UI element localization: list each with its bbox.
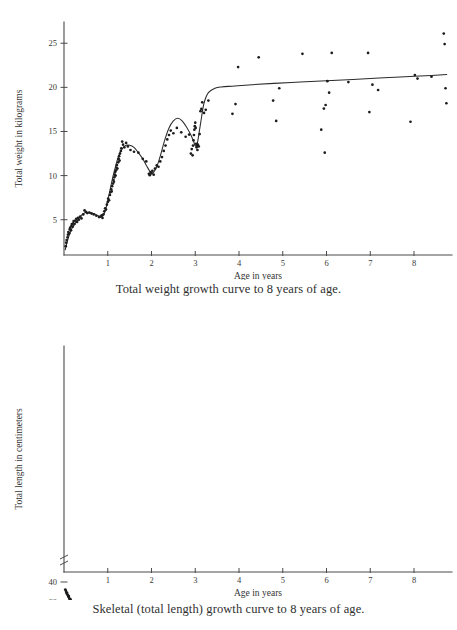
data-point: [64, 245, 67, 248]
data-point: [95, 214, 98, 217]
data-point: [326, 80, 329, 83]
data-point: [197, 145, 200, 148]
y-axis-title: Total weight in kilograms: [14, 89, 24, 187]
x-tick-label: 1: [106, 258, 110, 268]
data-point: [192, 139, 195, 142]
data-point: [70, 229, 73, 232]
data-point: [320, 128, 323, 131]
data-point: [92, 213, 95, 216]
data-point: [169, 129, 172, 132]
data-point: [330, 52, 333, 55]
figure-caption-weight: Total weight growth curve to 8 years of …: [0, 282, 457, 297]
data-point: [409, 120, 412, 123]
x-axis-title: Age in years: [234, 588, 282, 598]
figure-total-weight: 51015202512345678Age in yearsTotal weigh…: [0, 0, 457, 310]
data-point: [120, 147, 123, 150]
data-point: [116, 167, 119, 170]
x-tick-label: 2: [149, 258, 153, 268]
data-point: [194, 127, 197, 130]
data-point: [367, 52, 370, 55]
data-point: [73, 223, 76, 226]
x-tick-label: 3: [193, 575, 197, 585]
data-point: [272, 99, 275, 102]
y-tick-label: 10: [49, 171, 58, 181]
data-point: [157, 165, 160, 168]
data-point: [203, 112, 206, 115]
data-point: [180, 131, 183, 134]
data-point: [257, 56, 260, 59]
data-point: [301, 52, 304, 55]
data-point: [106, 203, 109, 206]
data-point: [200, 108, 203, 111]
data-point: [116, 164, 119, 167]
x-tick-label: 3: [193, 258, 197, 268]
x-tick-label: 5: [281, 258, 285, 268]
x-tick-label: 8: [412, 258, 416, 268]
y-tick-label: 60: [49, 597, 58, 600]
data-point: [237, 66, 240, 69]
data-point: [119, 152, 122, 155]
data-point: [161, 156, 164, 159]
data-point: [110, 190, 113, 193]
data-point: [102, 213, 105, 216]
data-point: [278, 87, 281, 90]
data-point: [105, 208, 108, 211]
data-point: [121, 140, 124, 143]
data-point: [152, 173, 155, 176]
y-tick-label: 20: [49, 82, 58, 92]
data-point: [234, 103, 237, 106]
data-point: [129, 149, 132, 152]
data-point: [118, 159, 121, 162]
data-point: [371, 83, 374, 86]
y-tick-label: 5: [53, 215, 57, 225]
data-point: [323, 107, 326, 110]
x-tick-label: 2: [149, 575, 153, 585]
data-point: [201, 101, 204, 104]
data-point: [323, 151, 326, 154]
data-point: [194, 121, 197, 124]
data-point: [76, 221, 79, 224]
data-point: [324, 104, 327, 107]
data-point: [114, 174, 117, 177]
x-tick-label: 1: [106, 575, 110, 585]
data-point: [191, 154, 194, 157]
data-point: [68, 232, 71, 235]
data-point: [65, 239, 68, 242]
x-tick-label: 4: [237, 575, 242, 585]
data-point: [166, 138, 169, 141]
data-point: [133, 150, 136, 153]
data-point: [123, 146, 126, 149]
data-point: [125, 142, 128, 145]
data-point: [111, 185, 114, 188]
data-point: [162, 150, 165, 153]
data-point: [118, 155, 121, 158]
growth-curve-line: [65, 75, 447, 250]
y-tick-label: 40: [49, 577, 58, 587]
data-point: [71, 225, 74, 228]
data-point: [275, 120, 278, 123]
data-point: [444, 87, 447, 90]
data-point: [122, 143, 125, 146]
data-point: [80, 217, 83, 220]
data-point: [193, 134, 196, 137]
weight-growth-chart: 51015202512345678Age in yearsTotal weigh…: [0, 0, 457, 280]
data-point: [127, 145, 130, 148]
x-axis-title: Age in years: [234, 271, 282, 280]
data-point: [190, 148, 193, 151]
figure-caption-length: Skeletal (total length) growth curve to …: [0, 602, 457, 617]
x-tick-label: 5: [281, 575, 285, 585]
x-tick-label: 7: [368, 258, 372, 268]
data-point: [443, 43, 446, 46]
x-tick-label: 4: [237, 258, 242, 268]
y-tick-label: 25: [49, 38, 58, 48]
data-point: [164, 144, 167, 147]
data-point: [416, 77, 419, 80]
data-point: [82, 213, 85, 216]
data-point: [414, 74, 417, 77]
data-point: [145, 160, 148, 163]
y-axis-title: Total length in centimeters: [14, 408, 24, 510]
data-point: [188, 133, 191, 136]
data-point: [109, 194, 112, 197]
data-point: [78, 218, 81, 221]
data-point: [151, 169, 154, 172]
